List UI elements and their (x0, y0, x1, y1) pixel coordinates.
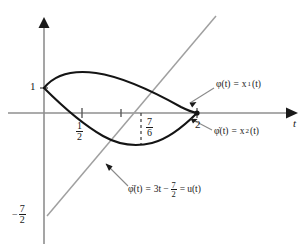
of-t: (t) (250, 127, 259, 137)
denominator: 2 (171, 189, 177, 199)
annotation-u-of-t: φ̈(t) = 3t − 7 2 = u(t) (128, 181, 201, 199)
denominator: 6 (146, 127, 153, 138)
leader-u-of-t (106, 164, 128, 186)
curve-phi-x1 (44, 72, 197, 113)
phi-symbol: φ(t) (216, 80, 230, 90)
numerator: 7 (146, 117, 153, 127)
y-tick-label-1: 1 (30, 81, 36, 92)
x-subscript: 2 (246, 128, 250, 135)
leader-phidot-x2 (191, 119, 212, 130)
equals-sign-2: = (180, 185, 185, 195)
x-tick-label-7-6: 7 6 (146, 117, 153, 138)
equals-sign: = (231, 127, 236, 137)
y-axis (39, 17, 50, 244)
equals-sign-1: = (145, 185, 150, 195)
equals-sign: = (233, 80, 238, 90)
x-subscript: 1 (248, 81, 252, 88)
phi-dot-symbol: φ̇(t) (214, 127, 228, 137)
numerator: 1 (76, 121, 83, 131)
denominator: 2 (76, 131, 83, 142)
annotation-phi-x1: φ(t) = x 1 (t) (216, 80, 261, 90)
x-symbol: x (242, 80, 247, 90)
phi-ddot-symbol: φ̈(t) (128, 185, 142, 195)
figure-canvas: 1 − 7 2 1 2 7 6 2 t φ(t) = x 1 (0, 0, 305, 252)
of-t: (t) (252, 80, 261, 90)
leader-phi-x1 (190, 88, 215, 108)
minus-sign: − (12, 210, 18, 220)
minus-sign: − (163, 185, 168, 195)
y-tick-label-minus-7-2: − 7 2 (12, 204, 26, 225)
annotation-phidot-x2: φ̇(t) = x 2 (t) (214, 127, 259, 137)
denominator: 2 (19, 214, 26, 225)
x-tick-label-2: 2 (195, 119, 201, 130)
numerator: 7 (171, 181, 177, 190)
x-tick-label-1-2: 1 2 (76, 121, 83, 142)
junction-point-t2 (194, 110, 199, 115)
x-axis (8, 108, 298, 119)
numerator: 7 (19, 204, 26, 214)
three-t-term: 3t (154, 185, 161, 195)
u-of-t: u(t) (187, 185, 201, 195)
x-symbol: x (240, 127, 245, 137)
x-axis-label-t: t (293, 118, 296, 129)
